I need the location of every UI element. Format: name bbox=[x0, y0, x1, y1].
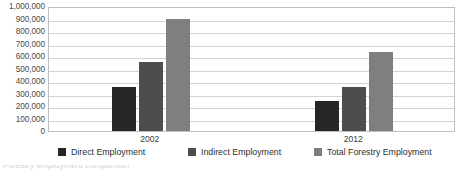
legend-label: Indirect Employment bbox=[201, 147, 281, 157]
y-tick-label: 300,000 bbox=[0, 90, 45, 98]
y-tick-label: 900,000 bbox=[0, 15, 45, 23]
legend-label: Total Forestry Employment bbox=[327, 147, 432, 157]
legend-item[interactable]: Indirect Employment bbox=[188, 147, 281, 157]
y-tick-label: 700,000 bbox=[0, 40, 45, 48]
y-axis: 1,000,000900,000800,000700,000600,000500… bbox=[0, 0, 45, 132]
y-tick-label: 400,000 bbox=[0, 78, 45, 86]
bar bbox=[369, 52, 393, 131]
legend-swatch-icon bbox=[314, 148, 322, 156]
y-tick-label: 600,000 bbox=[0, 53, 45, 61]
legend-swatch-icon bbox=[188, 148, 196, 156]
plot-wrapper: 1,000,000900,000800,000700,000600,000500… bbox=[0, 0, 461, 140]
bars-layer bbox=[49, 8, 454, 131]
bar bbox=[342, 87, 366, 131]
caption-text: Forestry employment comparison bbox=[3, 165, 129, 171]
bar bbox=[139, 62, 163, 131]
y-tick-label: 800,000 bbox=[0, 28, 45, 36]
bar bbox=[315, 101, 339, 131]
x-axis: 20022012 bbox=[48, 133, 455, 147]
y-tick-label: 500,000 bbox=[0, 65, 45, 73]
y-tick-label: 0 bbox=[0, 128, 45, 136]
legend-label: Direct Employment bbox=[71, 147, 145, 157]
bar-chart: 1,000,000900,000800,000700,000600,000500… bbox=[0, 0, 461, 176]
legend-item[interactable]: Direct Employment bbox=[58, 147, 145, 157]
legend-swatch-icon bbox=[58, 148, 66, 156]
x-axis-label: 2002 bbox=[140, 133, 159, 145]
caption-strip: Forestry employment comparison bbox=[0, 165, 461, 176]
plot-area bbox=[48, 7, 455, 132]
legend-item[interactable]: Total Forestry Employment bbox=[314, 147, 432, 157]
bar bbox=[166, 19, 190, 132]
x-axis-label: 2012 bbox=[344, 133, 363, 145]
bar bbox=[112, 87, 136, 131]
y-tick-label: 100,000 bbox=[0, 115, 45, 123]
y-tick-label: 1,000,000 bbox=[0, 3, 45, 11]
y-tick-label: 200,000 bbox=[0, 103, 45, 111]
chart-legend: Direct EmploymentIndirect EmploymentTota… bbox=[0, 147, 461, 163]
